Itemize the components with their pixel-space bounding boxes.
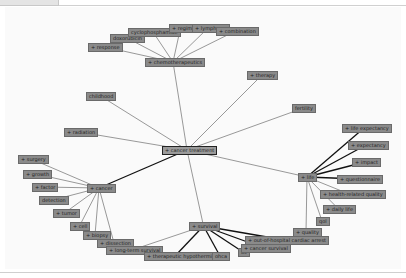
graph-node[interactable]: + daily life	[323, 205, 356, 214]
graph-node[interactable]: + combination	[216, 27, 259, 36]
graph-edge	[187, 150, 204, 226]
graph-node[interactable]: + questionnaire	[337, 175, 383, 184]
graph-node[interactable]: + survival	[189, 222, 220, 231]
graph-node[interactable]: + cancer survival	[241, 244, 291, 253]
bottom-divider	[0, 272, 406, 273]
graph-edge	[187, 108, 304, 150]
graph-node[interactable]: detection	[39, 196, 69, 205]
graph-node[interactable]: + expectancy	[348, 141, 389, 150]
graph-node[interactable]: + response	[88, 43, 123, 52]
graph-node[interactable]: + tumor	[53, 209, 80, 218]
graph-node[interactable]: + chemotherapeutics	[145, 58, 205, 67]
graph-node[interactable]: + cell	[70, 222, 90, 231]
graph-node[interactable]: + radiation	[64, 128, 98, 137]
center-node[interactable]: + cancer treatment	[162, 146, 217, 155]
graph-node[interactable]: + life expectancy	[342, 124, 392, 133]
graph-edge	[101, 96, 188, 150]
graph-edge	[306, 177, 307, 232]
graph-node[interactable]: + therapy	[247, 71, 278, 80]
graph-node[interactable]: childhood	[86, 92, 116, 101]
graph-node[interactable]: fertility	[292, 104, 316, 113]
graph-node[interactable]: + out-of-hospital cardiac arrest	[245, 236, 329, 245]
graph-node[interactable]: + factor	[32, 183, 58, 192]
graph-node[interactable]: ohca	[212, 252, 230, 261]
graph-edge	[173, 62, 187, 150]
graph-node[interactable]: + health-related quality	[320, 190, 386, 199]
graph-edge	[99, 150, 187, 188]
graph-edge	[187, 75, 262, 150]
graph-node[interactable]: + growth	[23, 170, 52, 179]
graph-node[interactable]: + surgery	[18, 155, 49, 164]
graph-node[interactable]: + cancer	[87, 184, 116, 193]
graph-edge	[307, 177, 322, 221]
graph-node[interactable]: + impact	[352, 158, 381, 167]
graph-node[interactable]: qol	[316, 217, 330, 226]
graph-edges	[0, 0, 406, 278]
graph-node[interactable]: + therapeutic hypothermia	[144, 252, 218, 261]
graph-node[interactable]: + life	[298, 173, 317, 182]
